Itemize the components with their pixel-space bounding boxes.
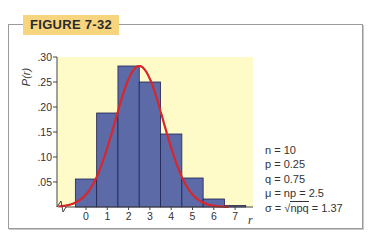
- x-ticks: 01234567: [83, 207, 238, 222]
- sigma-value: = 1.37: [309, 202, 343, 214]
- param-n: n = 10: [265, 143, 343, 157]
- x-tick-label: 5: [190, 210, 196, 222]
- parameter-list: n = 10 p = 0.25 q = 0.75 μ = np = 2.5 σ …: [265, 143, 343, 215]
- x-axis-label: r: [248, 213, 253, 227]
- x-tick-label: 7: [232, 210, 238, 222]
- y-tick-label: .20: [37, 101, 52, 113]
- y-axis-label: P(r): [20, 68, 32, 87]
- y-tick-label: .25: [37, 76, 52, 88]
- sigma-prefix: σ =: [265, 202, 284, 214]
- y-ticks: .05.10.15.20.25.30: [37, 51, 57, 188]
- x-tick-label: 6: [211, 210, 217, 222]
- x-tick-label: 2: [126, 210, 132, 222]
- y-tick-label: .05: [37, 176, 52, 188]
- param-sigma: σ = √npq = 1.37: [265, 201, 343, 215]
- bar-1: [97, 113, 118, 207]
- param-p: p = 0.25: [265, 157, 343, 171]
- y-tick-label: .15: [37, 126, 52, 138]
- x-tick-label: 4: [168, 210, 174, 222]
- sigma-radicand: npq: [290, 201, 308, 214]
- x-tick-label: 0: [83, 210, 89, 222]
- x-tick-label: 1: [104, 210, 110, 222]
- x-tick-label: 3: [147, 210, 153, 222]
- param-mu: μ = np = 2.5: [265, 186, 343, 200]
- bar-2: [118, 66, 139, 207]
- y-tick-label: .10: [37, 151, 52, 163]
- y-tick-label: .30: [37, 51, 52, 63]
- param-q: q = 0.75: [265, 172, 343, 186]
